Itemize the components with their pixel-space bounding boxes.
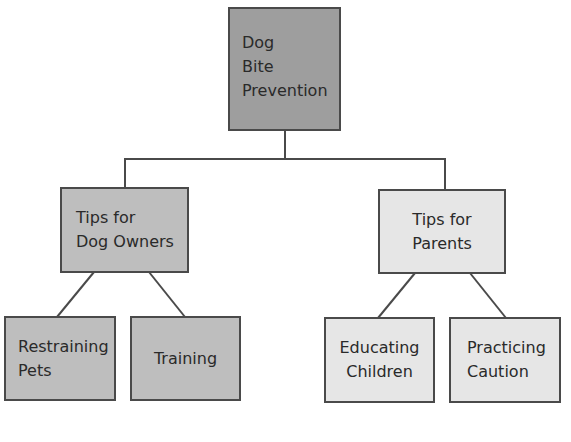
node-educating-children: Educating Children bbox=[324, 317, 435, 403]
node-label-line: Children bbox=[339, 360, 419, 384]
node-label-line: Dog bbox=[242, 31, 328, 55]
node-dog-bite-prevention: Dog Bite Prevention bbox=[228, 7, 341, 131]
connector-parents-practicing bbox=[470, 273, 506, 318]
node-practicing-caution: Practicing Caution bbox=[449, 317, 561, 403]
node-label-line: Pets bbox=[18, 359, 109, 383]
node-label-line: Tips for bbox=[76, 206, 174, 230]
node-label-line: Training bbox=[154, 347, 217, 371]
node-label-line: Tips for bbox=[412, 208, 472, 232]
node-label-line: Prevention bbox=[242, 79, 328, 103]
connector-parents-educating bbox=[378, 273, 415, 318]
diagram-canvas: Dog Bite Prevention Tips for Dog Owners … bbox=[0, 0, 571, 442]
node-tips-for-parents: Tips for Parents bbox=[378, 189, 506, 274]
node-label-line: Bite bbox=[242, 55, 328, 79]
node-label-line: Practicing bbox=[467, 336, 546, 360]
node-restraining-pets: Restraining Pets bbox=[4, 316, 116, 401]
node-tips-for-dog-owners: Tips for Dog Owners bbox=[60, 187, 189, 273]
connector-owners-training bbox=[149, 272, 185, 317]
node-label-line: Educating bbox=[339, 336, 419, 360]
connector-owners-restraining bbox=[57, 272, 94, 317]
node-label-line: Restraining bbox=[18, 335, 109, 359]
node-label-line: Caution bbox=[467, 360, 546, 384]
node-label-line: Dog Owners bbox=[76, 230, 174, 254]
node-training: Training bbox=[130, 316, 241, 401]
node-label-line: Parents bbox=[412, 232, 472, 256]
